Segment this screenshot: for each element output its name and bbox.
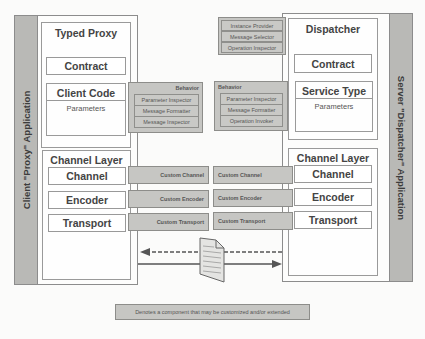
client-code-divider bbox=[47, 100, 125, 101]
client-behavior-label: Behavior bbox=[175, 85, 199, 91]
server-encoder-box: Encoder bbox=[294, 188, 372, 206]
client-application-label: Client "Proxy" Application bbox=[21, 91, 32, 209]
message-document-icon bbox=[198, 236, 228, 284]
service-type-title: Service Type bbox=[296, 85, 372, 97]
client-transport-box: Transport bbox=[48, 214, 126, 232]
server-channel-layer-title: Channel Layer bbox=[289, 152, 377, 164]
server-custom-channel-label: Custom Channel bbox=[218, 172, 262, 178]
client-channel-layer-title: Channel Layer bbox=[43, 154, 130, 166]
server-parameters-label: Parameters bbox=[296, 102, 372, 111]
client-custom-channel: Custom Channel bbox=[128, 166, 209, 184]
client-code-box: Client Code Parameters bbox=[46, 83, 126, 136]
service-type-divider bbox=[296, 98, 372, 99]
client-parameters-label: Parameters bbox=[47, 104, 125, 113]
legend-box: Denotes a component that may be customiz… bbox=[115, 304, 310, 320]
client-channel-box: Channel bbox=[48, 167, 126, 185]
client-custom-encoder: Custom Encoder bbox=[128, 190, 209, 208]
server-custom-transport-label: Custom Transport bbox=[218, 218, 265, 224]
client-custom-channel-label: Custom Channel bbox=[160, 172, 204, 178]
instance-provider: Instance Provider bbox=[221, 20, 283, 31]
typed-proxy-title: Typed Proxy bbox=[42, 27, 130, 39]
client-custom-encoder-label: Custom Encoder bbox=[160, 196, 204, 202]
client-code-title: Client Code bbox=[47, 87, 125, 99]
server-behavior-label: Behavior bbox=[218, 84, 242, 90]
client-contract-box: Contract bbox=[46, 57, 126, 75]
server-custom-transport: Custom Transport bbox=[213, 212, 293, 230]
service-type-box: Service Type Parameters bbox=[295, 81, 373, 132]
server-application-label: Server "Dispatcher" Application bbox=[396, 75, 407, 219]
dispatcher-title: Dispatcher bbox=[289, 23, 377, 35]
client-custom-transport-label: Custom Transport bbox=[157, 219, 204, 225]
server-channel-box: Channel bbox=[294, 165, 372, 183]
server-transport-box: Transport bbox=[294, 211, 372, 229]
message-selector: Message Selector bbox=[221, 31, 283, 42]
server-custom-encoder-label: Custom Encoder bbox=[218, 195, 262, 201]
server-application-strip: Server "Dispatcher" Application bbox=[389, 13, 413, 282]
operation-invoker: Operation Invoker bbox=[220, 115, 283, 127]
operation-inspector: Operation Inspector bbox=[221, 42, 283, 53]
legend-text: Denotes a component that may be customiz… bbox=[135, 309, 290, 315]
client-message-inspector: Message Inspector bbox=[134, 116, 199, 128]
server-contract-box: Contract bbox=[294, 54, 372, 73]
server-custom-encoder: Custom Encoder bbox=[213, 189, 293, 207]
client-custom-transport: Custom Transport bbox=[128, 213, 209, 231]
server-custom-channel: Custom Channel bbox=[213, 166, 293, 184]
client-encoder-box: Encoder bbox=[48, 191, 126, 209]
client-application-strip: Client "Proxy" Application bbox=[14, 15, 38, 285]
